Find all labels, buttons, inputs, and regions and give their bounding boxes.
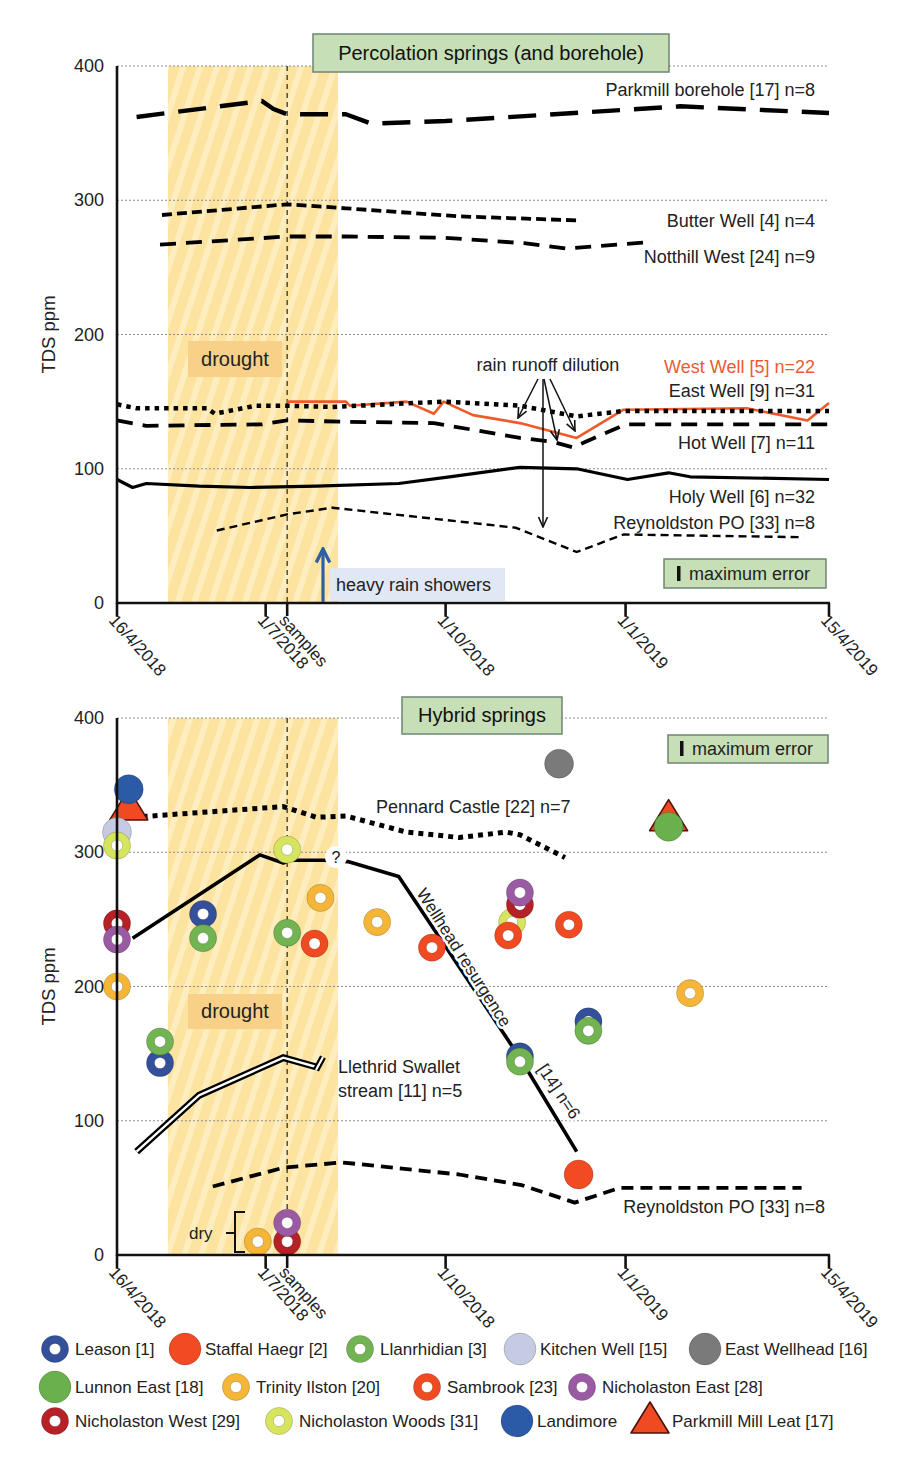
data-point-staffal-haegr [564,1160,593,1189]
heavy-rain-label: heavy rain showers [336,575,491,595]
ring-marker-icon [193,904,212,923]
series-label-west-well: West Well [5] n=22 [664,357,815,377]
legend-item-lunnon-east: Lunnon East [18] [39,1371,204,1403]
heavy-rain-annotation: heavy rain showers [323,549,505,602]
data-point-llanrhidian [274,919,301,946]
question-mark: ? [332,849,341,866]
x-tick-label: 15/4/2019 [817,611,882,680]
x-tick-label: 1/10/2018 [434,1263,499,1332]
x-tick-label: 1/1/2019 [614,1263,672,1325]
ring-marker-icon [311,888,330,907]
legend-marker-nicholaston-west [41,1407,68,1434]
legend-marker-sambrook [413,1373,440,1400]
data-point-trinity-ilston [307,884,334,911]
legend-label: Nicholaston Woods [31] [299,1412,478,1431]
x-tick-label: 1/1/2019 [614,611,672,673]
ring-marker-icon [681,984,700,1003]
figure: 010020030040016/4/20181/7/2018samples1/1… [0,0,915,1475]
series-label-east-well: East Well [9] n=31 [669,381,815,401]
ring-marker-icon [305,934,324,953]
ring-marker-icon [510,883,529,902]
y-tick-label: 0 [94,593,104,613]
y-tick-label: 300 [74,842,104,862]
top-title-box: Percolation springs (and borehole) [313,34,669,72]
legend-marker-east-wellhead [689,1333,721,1365]
error-bar-icon [680,741,684,756]
data-point-nicholaston-woods [274,836,301,863]
legend-label: Leason [1] [75,1340,154,1359]
series-label-parkmill-borehole: Parkmill borehole [17] n=8 [605,80,815,100]
bottom-panel: ? 010020030040016/4/20181/7/2018samples1… [38,697,882,1332]
legend-marker-lunnon-east [39,1371,71,1403]
data-point-trinity-ilston [364,908,391,935]
error-bar-icon [677,566,681,581]
rain-runoff-label: rain runoff dilution [477,355,620,375]
legend-item-nicholaston-woods: Nicholaston Woods [31] [265,1407,478,1434]
ring-marker-icon [45,1411,64,1430]
filled-circle-marker-icon [169,1333,201,1365]
ring-marker-icon [559,915,578,934]
dry-label: dry [189,1224,213,1243]
legend-label: Sambrook [23] [447,1378,558,1397]
x-tick-label: 16/4/2018 [105,1263,170,1332]
legend-label: Nicholaston West [29] [75,1412,240,1431]
filled-circle-marker-icon [504,1333,536,1365]
ring-marker-icon [193,929,212,948]
series-label-holy-well: Holy Well [6] n=32 [669,487,815,507]
filled-circle-marker-icon [501,1405,533,1437]
ring-marker-icon [269,1411,288,1430]
ring-marker-icon [417,1377,436,1396]
filled-circle-marker-icon [564,1160,593,1189]
series-label-pennard-castle: Pennard Castle [22] n=7 [376,797,571,817]
x-tick-label: 1/10/2018 [434,611,499,680]
y-tick-label: 200 [74,977,104,997]
legend-label: Staffal Haegr [2] [205,1340,328,1359]
legend-item-landimore: Landimore [501,1405,617,1437]
legend-label: Nicholaston East [28] [602,1378,763,1397]
arrow-icon [518,379,538,418]
ring-marker-icon [572,1377,591,1396]
series-label-reynoldston-po: Reynoldston PO [33] n=8 [613,513,815,533]
ring-marker-icon [248,1232,267,1251]
x-tick-label: 15/4/2019 [817,1263,882,1332]
legend-item-sambrook: Sambrook [23] [413,1373,557,1400]
data-point-lunnon-east [654,812,683,841]
legend-label: Landimore [537,1412,617,1431]
legend-item-nicholaston-west: Nicholaston West [29] [41,1407,240,1434]
filled-circle-marker-icon [654,812,683,841]
data-point-llanrhidian [189,925,216,952]
ring-marker-icon [278,1213,297,1232]
drought-label: drought [201,348,269,370]
filled-circle-marker-icon [689,1333,721,1365]
data-point-sambrook [555,911,582,938]
legend-item-leason: Leason [1] [41,1335,154,1362]
max-error-label: maximum error [692,739,813,759]
ring-marker-icon [278,840,297,859]
legend-label: East Wellhead [16] [725,1340,867,1359]
legend-label: Trinity Ilston [20] [256,1378,380,1397]
filled-circle-marker-icon [39,1371,71,1403]
data-point-sambrook [301,930,328,957]
data-point-trinity-ilston [244,1228,271,1255]
drought-label-box: drought [188,994,282,1029]
legend-item-nicholaston-east: Nicholaston East [28] [568,1373,762,1400]
ring-marker-icon [579,1021,598,1040]
y-tick-label: 300 [74,190,104,210]
ring-marker-icon [150,1032,169,1051]
ring-marker-icon [350,1339,369,1358]
ring-marker-icon [510,1052,529,1071]
data-point-landimore [114,775,143,804]
legend: Leason [1]Staffal Haegr [2]Llanrhidian [… [39,1333,867,1437]
top-series-labels: Parkmill borehole [17] n=8 Butter Well [… [605,80,815,533]
series-label-butter-well: Butter Well [4] n=4 [667,211,815,231]
filled-circle-marker-icon [114,775,143,804]
ring-marker-icon [45,1339,64,1358]
series-label-reynoldston-po: Reynoldston PO [33] n=8 [623,1197,825,1217]
y-tick-label: 200 [74,325,104,345]
data-point-east-wellhead [545,749,574,778]
x-tick-label: 16/4/2018 [105,611,170,680]
legend-marker-nicholaston-east [568,1373,595,1400]
legend-marker-parkmill-mill-leat [631,1402,669,1433]
legend-marker-kitchen-well [504,1333,536,1365]
legend-item-llanrhidian: Llanrhidian [3] [346,1335,486,1362]
